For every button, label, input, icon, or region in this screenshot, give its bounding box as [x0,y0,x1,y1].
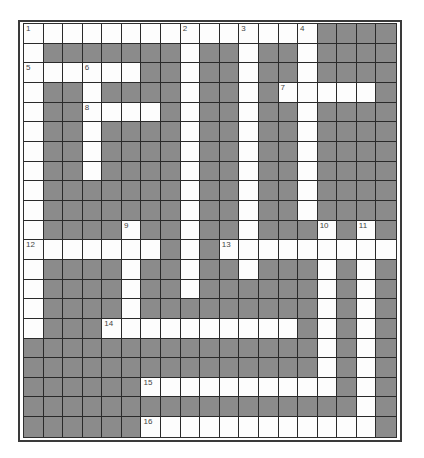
answer-cell[interactable] [259,24,279,44]
answer-cell[interactable] [44,24,64,44]
answer-cell[interactable] [102,240,122,260]
answer-cell[interactable] [102,63,122,83]
answer-cell[interactable] [181,378,201,398]
answer-cell[interactable] [279,240,299,260]
answer-cell[interactable] [357,240,377,260]
answer-cell[interactable] [259,378,279,398]
answer-cell[interactable] [24,83,44,103]
answer-cell[interactable] [357,339,377,359]
answer-cell[interactable] [259,319,279,339]
answer-cell[interactable] [181,260,201,280]
answer-cell[interactable] [220,24,240,44]
answer-cell[interactable] [259,240,279,260]
answer-cell[interactable] [24,260,44,280]
answer-cell[interactable] [141,240,161,260]
answer-cell[interactable]: 15 [141,378,161,398]
answer-cell[interactable] [24,280,44,300]
answer-cell[interactable] [239,240,259,260]
answer-cell[interactable]: 3 [239,24,259,44]
answer-cell[interactable]: 14 [102,319,122,339]
answer-cell[interactable] [181,417,201,437]
answer-cell[interactable] [83,162,103,182]
answer-cell[interactable] [181,162,201,182]
answer-cell[interactable] [181,221,201,241]
answer-cell[interactable] [181,83,201,103]
answer-cell[interactable] [318,417,338,437]
answer-cell[interactable]: 9 [122,221,142,241]
answer-cell[interactable] [24,142,44,162]
answer-cell[interactable] [181,44,201,64]
answer-cell[interactable] [318,339,338,359]
answer-cell[interactable] [298,162,318,182]
answer-cell[interactable] [63,240,83,260]
answer-cell[interactable] [102,103,122,123]
answer-cell[interactable] [298,44,318,64]
answer-cell[interactable] [239,201,259,221]
answer-cell[interactable] [102,24,122,44]
answer-cell[interactable] [357,378,377,398]
answer-cell[interactable] [337,83,357,103]
answer-cell[interactable]: 2 [181,24,201,44]
answer-cell[interactable]: 6 [83,63,103,83]
answer-cell[interactable] [83,122,103,142]
answer-cell[interactable] [239,181,259,201]
answer-cell[interactable] [279,319,299,339]
answer-cell[interactable]: 11 [357,221,377,241]
answer-cell[interactable] [298,63,318,83]
answer-cell[interactable] [181,63,201,83]
answer-cell[interactable] [220,378,240,398]
answer-cell[interactable] [239,122,259,142]
answer-cell[interactable] [239,162,259,182]
answer-cell[interactable]: 12 [24,240,44,260]
answer-cell[interactable] [298,181,318,201]
answer-cell[interactable]: 5 [24,63,44,83]
answer-cell[interactable] [298,83,318,103]
answer-cell[interactable] [357,83,377,103]
answer-cell[interactable] [239,319,259,339]
answer-cell[interactable] [239,63,259,83]
answer-cell[interactable] [239,221,259,241]
answer-cell[interactable] [141,319,161,339]
answer-cell[interactable] [24,122,44,142]
answer-cell[interactable] [24,299,44,319]
answer-cell[interactable] [239,83,259,103]
answer-cell[interactable] [220,319,240,339]
answer-cell[interactable] [298,142,318,162]
answer-cell[interactable] [181,319,201,339]
answer-cell[interactable] [24,221,44,241]
answer-cell[interactable] [24,162,44,182]
answer-cell[interactable] [239,44,259,64]
answer-cell[interactable] [298,417,318,437]
answer-cell[interactable] [122,299,142,319]
answer-cell[interactable] [122,319,142,339]
answer-cell[interactable] [239,260,259,280]
answer-cell[interactable] [318,83,338,103]
answer-cell[interactable] [239,103,259,123]
answer-cell[interactable] [357,260,377,280]
answer-cell[interactable]: 1 [24,24,44,44]
answer-cell[interactable] [24,319,44,339]
answer-cell[interactable] [357,319,377,339]
answer-cell[interactable] [357,417,377,437]
answer-cell[interactable] [63,63,83,83]
answer-cell[interactable] [181,103,201,123]
answer-cell[interactable] [181,201,201,221]
answer-cell[interactable] [122,260,142,280]
answer-cell[interactable] [239,417,259,437]
answer-cell[interactable] [63,24,83,44]
answer-cell[interactable] [337,417,357,437]
answer-cell[interactable] [83,142,103,162]
answer-cell[interactable] [181,280,201,300]
answer-cell[interactable]: 10 [318,221,338,241]
answer-cell[interactable] [200,319,220,339]
answer-cell[interactable] [279,24,299,44]
answer-cell[interactable] [357,358,377,378]
answer-cell[interactable] [141,103,161,123]
answer-cell[interactable] [24,44,44,64]
answer-cell[interactable] [24,181,44,201]
answer-cell[interactable]: 4 [298,24,318,44]
answer-cell[interactable] [83,24,103,44]
answer-cell[interactable] [279,417,299,437]
answer-cell[interactable] [376,240,396,260]
answer-cell[interactable] [318,280,338,300]
